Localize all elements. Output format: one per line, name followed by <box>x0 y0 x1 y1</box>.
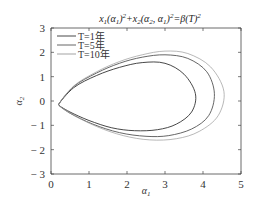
y-tick-label: 0 <box>40 95 46 107</box>
y-tick-label: 1 <box>40 71 46 83</box>
chart-svg: x1(α1)2+x2(α2, α1)2=β(T)2 012345 3210− 1… <box>0 0 255 207</box>
y-tick-label: 3 <box>40 22 46 34</box>
x-axis-label: α1 <box>142 185 151 198</box>
y-axis-label: α2 <box>13 96 26 105</box>
legend: T=1年T=5年T=10年 <box>57 30 110 60</box>
x-tick-label: 4 <box>200 178 206 190</box>
x-tick-label: 3 <box>162 178 168 190</box>
svg-text:α2: α2 <box>13 96 26 105</box>
y-tick-label: − 2 <box>31 144 45 156</box>
y-tick-label: − 3 <box>31 168 46 180</box>
x-tick-label: 1 <box>86 178 92 190</box>
x-tick-label: 5 <box>238 178 244 190</box>
curve-1 <box>59 62 196 131</box>
x-tick-label: 2 <box>124 178 130 190</box>
plot-curves <box>59 51 225 140</box>
y-tick-labels: 3210− 1− 2− 3 <box>31 22 46 180</box>
y-tick-label: 2 <box>40 46 46 58</box>
legend-label: T=10年 <box>78 48 110 60</box>
chart-title: x1(α1)2+x2(α2, α1)2=β(T)2 <box>98 12 201 26</box>
x-tick-label: 0 <box>48 178 54 190</box>
curve-2 <box>59 55 215 137</box>
y-tick-label: − 1 <box>31 119 45 131</box>
